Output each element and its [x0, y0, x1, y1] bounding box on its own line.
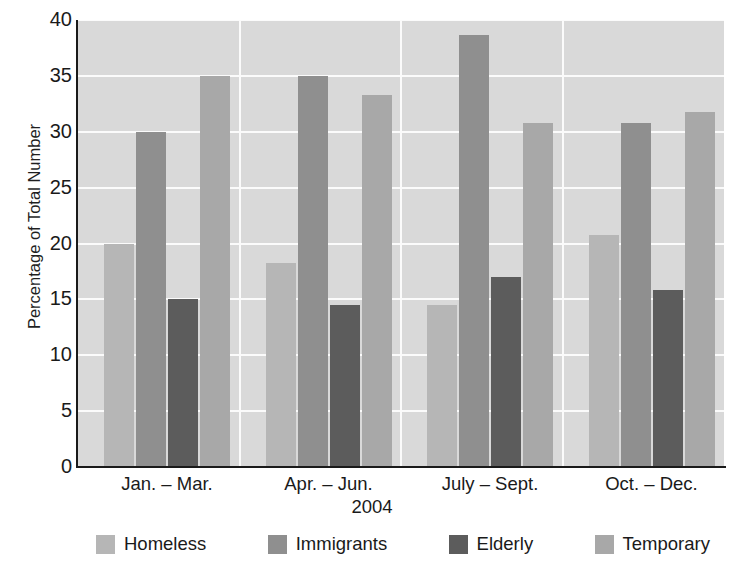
legend-label: Homeless	[124, 533, 206, 555]
x-axis-tick-label: Jan. – Mar.	[77, 473, 257, 495]
bar	[266, 263, 296, 468]
legend-swatch-icon	[449, 535, 468, 554]
legend-swatch-icon	[96, 535, 115, 554]
bar	[459, 35, 489, 467]
x-axis-tick-label: Oct. – Dec.	[562, 473, 742, 495]
x-axis-tick-label: July – Sept.	[400, 473, 580, 495]
bar	[362, 95, 392, 467]
x-axis-line	[76, 466, 726, 468]
bar	[298, 76, 328, 467]
bar	[427, 305, 457, 467]
legend-item[interactable]: Homeless	[96, 533, 206, 555]
legend-label: Elderly	[477, 533, 534, 555]
bar	[136, 132, 166, 467]
x-axis-tick-label: Apr. – Jun.	[239, 473, 419, 495]
bar	[523, 123, 553, 467]
y-axis-tick-label: 25	[24, 177, 72, 197]
y-axis-tick-label: 15	[24, 288, 72, 308]
legend-swatch-icon	[595, 535, 614, 554]
bar	[653, 290, 683, 467]
y-axis-tick-label: 30	[24, 121, 72, 141]
y-axis-tick-label: 0	[24, 456, 72, 476]
legend-swatch-icon	[268, 535, 287, 554]
y-axis-tick-label: 5	[24, 400, 72, 420]
group-separator	[400, 20, 402, 467]
bar-chart: Percentage of Total Number 0510152025303…	[0, 0, 744, 573]
y-axis-tick-labels: 0510152025303540	[20, 0, 72, 573]
y-axis-tick-label: 10	[24, 344, 72, 364]
y-axis-tick-label: 35	[24, 65, 72, 85]
y-axis-tick-label: 40	[24, 9, 72, 29]
bar	[685, 112, 715, 467]
legend-label: Temporary	[623, 533, 710, 555]
legend-label: Immigrants	[296, 533, 388, 555]
legend-item[interactable]: Immigrants	[268, 533, 388, 555]
chart-title	[0, 0, 744, 3]
plot-area	[78, 20, 724, 467]
bar	[168, 299, 198, 467]
y-axis-line	[76, 20, 78, 468]
bar	[621, 123, 651, 467]
bar	[491, 277, 521, 467]
bar	[589, 235, 619, 467]
y-axis-tick-label: 20	[24, 233, 72, 253]
x-axis-title: 2004	[0, 496, 744, 518]
legend-item[interactable]: Elderly	[449, 533, 534, 555]
bar	[104, 244, 134, 468]
bar	[200, 76, 230, 467]
group-separator	[239, 20, 241, 467]
legend-item[interactable]: Temporary	[595, 533, 710, 555]
group-separator	[562, 20, 564, 467]
bar	[330, 305, 360, 467]
chart-legend: HomelessImmigrantsElderlyTemporary	[78, 529, 724, 559]
